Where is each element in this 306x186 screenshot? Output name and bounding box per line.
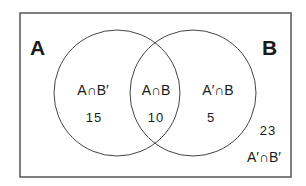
region-a-only-count: 15 [86,110,102,125]
region-neither-label: A′∩B′ [247,149,281,165]
region-intersection-label: A∩B [142,82,171,98]
venn-diagram: A B A∩B′ 15 A∩B 10 A′∩B 5 A′∩B′ 23 [0,0,306,186]
region-neither-count: 23 [260,123,276,138]
set-a-label: A [30,36,45,59]
set-b-label: B [262,36,277,59]
region-b-only-label: A′∩B [202,82,233,98]
region-a-only-label: A∩B′ [77,82,109,98]
region-intersection-count: 10 [148,110,164,125]
region-b-only-count: 5 [207,110,215,125]
